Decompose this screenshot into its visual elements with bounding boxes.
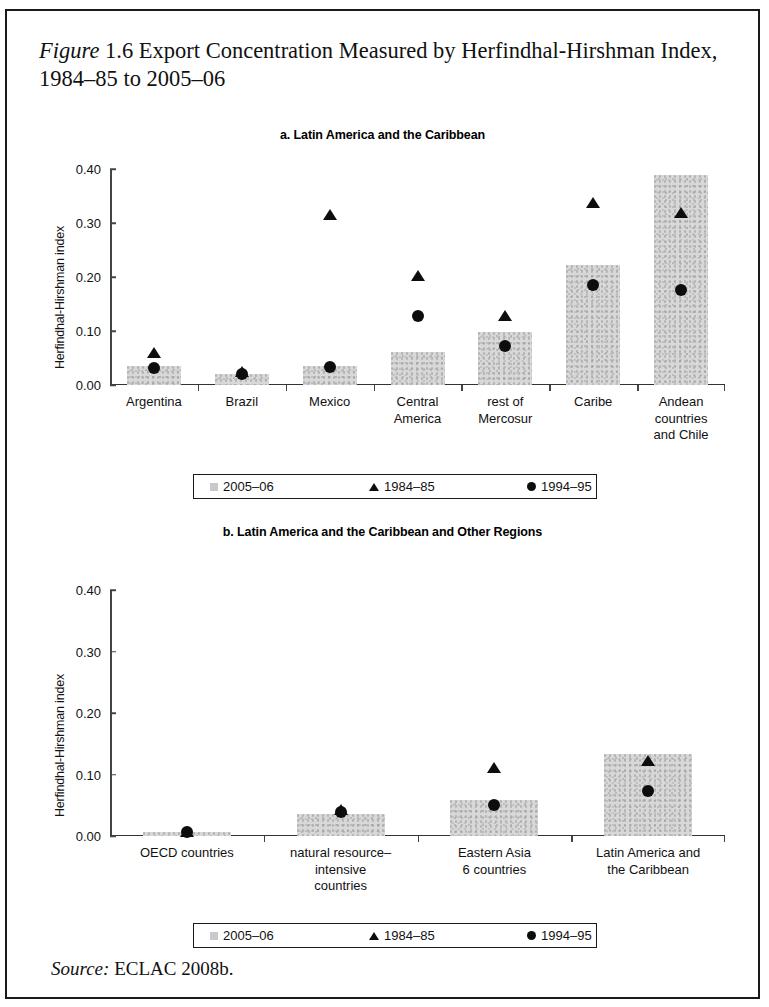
legend-label-a-0: 2005–06 xyxy=(223,479,274,494)
x-axis-label-b-1: natural resource– intensive countries xyxy=(252,845,430,895)
y-tick-label-a-0: 0.00 xyxy=(76,378,110,393)
square-icon xyxy=(210,483,218,491)
legend-item-a-0: 2005–06 xyxy=(210,479,274,494)
x-tick-mark-b-2 xyxy=(418,836,420,842)
legend-item-b-0: 2005–06 xyxy=(210,928,274,943)
source-label: Source: xyxy=(51,958,109,979)
x-tick-mark-a-4 xyxy=(461,385,463,391)
figure-number: 1.6 xyxy=(105,38,133,63)
x-tick-mark-a-2 xyxy=(286,385,288,391)
figure-label: Figure xyxy=(39,38,99,63)
x-axis-label-a-6: Andean countries and Chile xyxy=(625,394,737,444)
y-tick-label-b-2: 0.20 xyxy=(76,706,110,721)
x-tick-mark-a-1 xyxy=(198,385,200,391)
triangle-marker-a-4 xyxy=(498,310,512,321)
circle-icon xyxy=(527,931,536,940)
triangle-marker-a-3 xyxy=(411,270,425,281)
y-tick-label-a-2: 0.20 xyxy=(76,270,110,285)
legend-label-a-2: 1994–95 xyxy=(541,479,592,494)
x-axis-label-b-3: Latin America and the Caribbean xyxy=(559,845,737,878)
source-text: ECLAC 2008b. xyxy=(114,958,233,979)
circle-marker-a-2 xyxy=(324,361,336,373)
legend-label-b-1: 1984–85 xyxy=(384,928,435,943)
x-tick-mark-b-end xyxy=(724,836,726,842)
panel-b-title: b. Latin America and the Caribbean and O… xyxy=(7,525,758,539)
panel-b-legend: 2005–061984–851994–95 xyxy=(193,923,597,948)
panel-a-title: a. Latin America and the Caribbean xyxy=(7,128,758,142)
circle-marker-a-1 xyxy=(236,368,248,380)
y-tick-label-a-4: 0.40 xyxy=(76,162,110,177)
legend-item-b-2: 1994–95 xyxy=(527,928,592,943)
panel-a-legend: 2005–061984–851994–95 xyxy=(193,474,597,499)
figure-title: Figure 1.6 Export Concentration Measured… xyxy=(39,37,729,93)
panel-b-y-axis-label: Herfindhal-Hirshman index xyxy=(53,674,67,817)
legend-item-a-2: 1994–95 xyxy=(527,479,592,494)
triangle-marker-a-6 xyxy=(674,207,688,218)
x-axis-label-b-0: OECD countries xyxy=(98,845,276,862)
triangle-icon xyxy=(369,483,379,491)
circle-marker-b-2 xyxy=(488,799,500,811)
legend-item-a-1: 1984–85 xyxy=(369,479,435,494)
x-tick-mark-b-1 xyxy=(264,836,266,842)
triangle-marker-a-0 xyxy=(147,347,161,358)
figure-page-frame: Figure 1.6 Export Concentration Measured… xyxy=(5,9,760,999)
x-tick-mark-a-5 xyxy=(549,385,551,391)
circle-icon xyxy=(527,482,536,491)
x-tick-mark-a-end xyxy=(724,385,726,391)
legend-label-b-0: 2005–06 xyxy=(223,928,274,943)
y-tick-mark-b-0 xyxy=(110,835,116,837)
triangle-marker-b-2 xyxy=(487,762,501,773)
source-line: Source: ECLAC 2008b. xyxy=(51,958,233,980)
y-tick-mark-a-3 xyxy=(110,222,116,224)
x-tick-mark-a-6 xyxy=(637,385,639,391)
y-tick-label-b-3: 0.30 xyxy=(76,644,110,659)
y-tick-label-b-4: 0.40 xyxy=(76,583,110,598)
x-tick-mark-b-3 xyxy=(571,836,573,842)
y-tick-label-a-3: 0.30 xyxy=(76,216,110,231)
bar-a-3 xyxy=(391,352,445,385)
triangle-marker-a-5 xyxy=(586,197,600,208)
y-tick-mark-b-3 xyxy=(110,651,116,653)
circle-marker-a-6 xyxy=(675,284,687,296)
circle-marker-a-4 xyxy=(499,340,511,352)
figure-title-text: Export Concentration Measured by Herfind… xyxy=(39,38,717,91)
x-axis-label-b-2: Eastern Asia 6 countries xyxy=(406,845,584,878)
circle-marker-b-0 xyxy=(181,826,193,838)
y-tick-label-a-1: 0.10 xyxy=(76,324,110,339)
y-tick-mark-b-1 xyxy=(110,774,116,776)
y-tick-mark-a-1 xyxy=(110,330,116,332)
circle-marker-b-3 xyxy=(642,785,654,797)
legend-item-b-1: 1984–85 xyxy=(369,928,435,943)
legend-label-b-2: 1994–95 xyxy=(541,928,592,943)
triangle-marker-a-2 xyxy=(323,209,337,220)
x-tick-mark-a-3 xyxy=(374,385,376,391)
y-tick-mark-b-2 xyxy=(110,712,116,714)
legend-label-a-1: 1984–85 xyxy=(384,479,435,494)
panel-a-y-axis-label: Herfindhal-Hirshman index xyxy=(53,226,67,369)
square-icon xyxy=(210,932,218,940)
y-tick-mark-b-4 xyxy=(110,589,116,591)
circle-marker-a-3 xyxy=(412,310,424,322)
y-tick-label-b-1: 0.10 xyxy=(76,767,110,782)
circle-marker-a-0 xyxy=(148,362,160,374)
triangle-marker-b-3 xyxy=(641,755,655,766)
panel-a-plot-area: 0.000.100.200.300.40ArgentinaBrazilMexic… xyxy=(110,169,725,385)
circle-marker-a-5 xyxy=(587,279,599,291)
y-tick-mark-a-2 xyxy=(110,276,116,278)
y-tick-mark-a-4 xyxy=(110,168,116,170)
y-tick-mark-a-0 xyxy=(110,384,116,386)
triangle-icon xyxy=(369,932,379,940)
panel-b-plot-area: 0.000.100.200.300.40OECD countriesnatura… xyxy=(110,590,725,836)
y-tick-label-b-0: 0.00 xyxy=(76,829,110,844)
circle-marker-b-1 xyxy=(335,806,347,818)
